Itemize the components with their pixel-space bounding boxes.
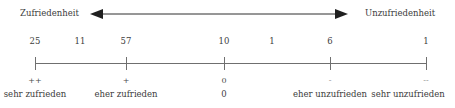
scale-symbol: -: [329, 77, 332, 85]
frequency-value: 57: [121, 37, 132, 46]
pole-label-left: Zufriedenheit: [20, 9, 79, 18]
scale-axis-line: [35, 63, 426, 64]
axis-tick: [224, 57, 225, 70]
scale-symbol: ++: [28, 77, 41, 85]
scale-anchor-label: sehr zufrieden: [4, 90, 67, 99]
scale-anchor-label: eher zufrieden: [94, 90, 157, 99]
frequency-value: 1: [423, 37, 428, 46]
scale-anchor-label: eher unzufrieden: [293, 90, 367, 99]
frequency-value: 10: [219, 37, 230, 46]
scale-symbol: +: [123, 77, 130, 85]
scale-anchor-label: sehr unzufrieden: [371, 90, 444, 99]
scale-anchor-label: 0: [221, 90, 226, 99]
satisfaction-scale-figure: Zufriedenheit Unzufriedenheit 25 11 57 1…: [0, 0, 455, 108]
double-headed-arrow-icon: [90, 6, 348, 22]
axis-tick: [126, 57, 127, 70]
scale-symbol: --: [423, 77, 428, 85]
scale-symbol: 0: [221, 77, 226, 85]
frequency-value: 25: [30, 37, 41, 46]
frequency-value: 1: [269, 37, 274, 46]
axis-tick: [426, 57, 427, 70]
axis-tick: [330, 57, 331, 70]
frequency-value: 6: [327, 37, 332, 46]
axis-tick: [35, 57, 36, 70]
pole-label-right: Unzufriedenheit: [365, 9, 435, 18]
frequency-value: 11: [75, 37, 86, 46]
